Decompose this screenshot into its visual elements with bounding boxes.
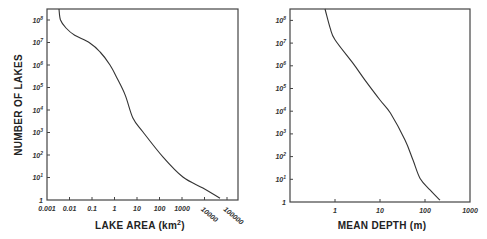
y-tick-label: 104 bbox=[32, 105, 43, 114]
y-tick-label: 103 bbox=[275, 128, 286, 137]
x-tick-label: 0.1 bbox=[87, 205, 97, 212]
x-tick-label: 100 bbox=[419, 207, 431, 214]
left-x-axis-title: LAKE AREA (km2) bbox=[95, 219, 185, 231]
y-tick-label: 107 bbox=[275, 38, 286, 47]
x-tick-label: 10 bbox=[133, 205, 141, 212]
x-tick-label: 10 bbox=[376, 207, 384, 214]
left-data-curve bbox=[59, 9, 220, 198]
right-plot-frame bbox=[290, 9, 470, 202]
x-tick-label: 100 bbox=[154, 205, 166, 212]
x-tick-label: 1 bbox=[113, 205, 117, 212]
y-tick-label: 106 bbox=[32, 60, 43, 69]
y-tick-label: 101 bbox=[32, 172, 43, 181]
x-tick-label: 0.001 bbox=[38, 205, 56, 212]
y-tick-label: 101 bbox=[275, 174, 286, 183]
left-chart: 1081071061051041031021011 0.0010.010.111… bbox=[13, 9, 245, 231]
y-tick-label: 108 bbox=[32, 15, 43, 24]
y-tick-label: 1 bbox=[282, 199, 286, 206]
x-tick-label: 0.01 bbox=[63, 205, 77, 212]
x-tick-label: 1000 bbox=[462, 207, 478, 214]
y-tick-label: 102 bbox=[32, 150, 43, 159]
x-tick-label: 1 bbox=[333, 207, 337, 214]
y-tick-label: 107 bbox=[32, 37, 43, 46]
y-tick-label: 104 bbox=[275, 106, 286, 115]
figure: 1081071061051041031021011 0.0010.010.111… bbox=[0, 0, 487, 239]
x-tick-label: 10000 bbox=[200, 205, 219, 223]
y-tick-label: 108 bbox=[275, 15, 286, 24]
y-tick-label: 1 bbox=[39, 197, 43, 204]
right-x-axis: 1101001000 bbox=[333, 199, 478, 214]
x-tick-label: 1000 bbox=[174, 205, 190, 212]
y-tick-label: 102 bbox=[275, 151, 286, 160]
right-chart: 1081071061051041031021011 1101001000 MEA… bbox=[275, 9, 477, 231]
y-tick-label: 105 bbox=[32, 82, 43, 91]
left-y-axis-title: NUMBER OF LAKES bbox=[13, 54, 24, 156]
left-plot-frame bbox=[47, 9, 238, 200]
y-tick-label: 106 bbox=[275, 60, 286, 69]
y-tick-label: 105 bbox=[275, 83, 286, 92]
right-x-axis-title: MEAN DEPTH (m) bbox=[338, 220, 427, 231]
y-tick-label: 103 bbox=[32, 127, 43, 136]
right-data-curve bbox=[325, 9, 440, 200]
x-tick-label: 100000 bbox=[222, 205, 244, 225]
